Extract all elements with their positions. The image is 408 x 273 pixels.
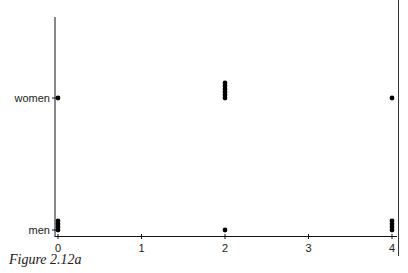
data-dot bbox=[223, 228, 228, 233]
y-category-label: men bbox=[29, 224, 50, 236]
dot-plot: 01234 menwomen bbox=[0, 0, 408, 273]
data-dot bbox=[56, 96, 61, 101]
y-category-label: women bbox=[14, 92, 50, 104]
axes bbox=[55, 0, 399, 256]
data-dot bbox=[390, 96, 395, 101]
figure-caption: Figure 2.12a bbox=[9, 252, 82, 268]
x-tick-label: 2 bbox=[222, 242, 228, 254]
x-tick-label: 1 bbox=[138, 242, 144, 254]
x-tick-label: 4 bbox=[389, 242, 395, 254]
data-points bbox=[56, 81, 395, 233]
data-dot bbox=[390, 219, 395, 224]
data-dot bbox=[56, 219, 61, 224]
data-dot bbox=[223, 81, 228, 86]
y-ticks: menwomen bbox=[14, 92, 58, 236]
x-tick-label: 3 bbox=[305, 242, 311, 254]
